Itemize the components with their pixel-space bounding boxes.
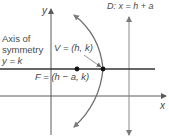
axis-of-symmetry-label-line3: y = k	[2, 56, 22, 66]
parabola-diagram: y x D: x = h + a Axis of symmetry y = k …	[0, 0, 169, 139]
vertex-label: V = (h, k)	[54, 43, 93, 53]
vertex-pointer-arrow	[84, 55, 101, 67]
y-axis-label: y	[42, 6, 47, 16]
vertex-point	[101, 67, 106, 72]
directrix-label: D: x = h + a	[107, 2, 154, 11]
axis-of-symmetry-label-line2: symmetry	[2, 45, 43, 55]
axis-of-symmetry-label-line1: Axis of	[2, 34, 31, 44]
x-axis-label: x	[160, 101, 165, 111]
focus-label: F = (h − a, k)	[35, 72, 89, 82]
diagram-canvas	[0, 0, 169, 139]
